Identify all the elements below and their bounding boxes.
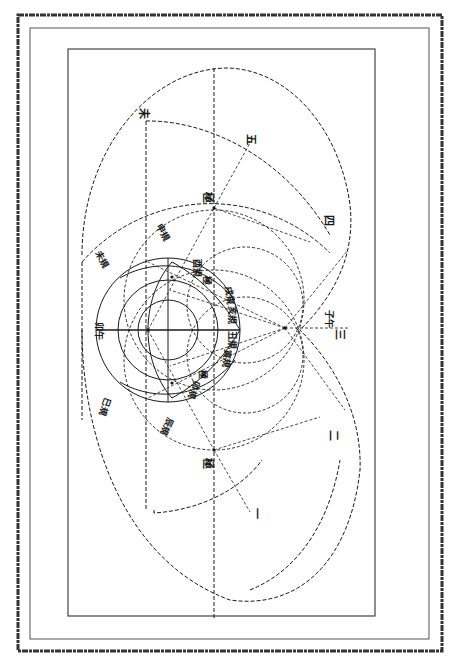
solid-circles [96, 258, 240, 402]
outer-arcs [82, 68, 360, 620]
label-inner-4: 丑規 [227, 331, 238, 349]
label-upper-pole: 極 [201, 191, 215, 203]
label-mark-five: 五 [244, 134, 257, 145]
label-inner-6: 極 [198, 369, 209, 379]
label-inner-2: 戌規 [223, 285, 237, 305]
label-mark-four: 四 [322, 215, 335, 226]
label-lower-mid-arc: 辰規 [158, 416, 176, 437]
label-inner-0: 酉規 [192, 259, 203, 277]
geometric-diagram: 未 五 四 子午 三 二 一 極 極 卯午 未規 巳規 申規 辰規 酉規 極 戌… [0, 0, 456, 659]
label-right-point: 子午 [324, 310, 335, 328]
label-top-left-point: 未 [137, 107, 151, 120]
label-mark-two: 二 [327, 430, 340, 441]
label-inner-7: 卯規 [186, 379, 202, 400]
label-upper-left-arc: 未規 [92, 248, 111, 270]
points [146, 206, 287, 451]
label-lower-left-arc: 巳規 [97, 396, 113, 417]
label-inner-5: 寅規 [220, 349, 234, 369]
radial-lines [148, 143, 350, 512]
label-mark-three: 三 [333, 329, 346, 340]
label-upper-mid-arc: 申規 [154, 222, 173, 243]
label-lower-pole: 極 [201, 457, 215, 469]
label-inner-1: 極 [202, 275, 213, 285]
label-left-axis: 卯午 [94, 322, 105, 340]
label-inner-3: 亥規 [227, 306, 238, 324]
labels: 未 五 四 子午 三 二 一 極 極 卯午 未規 巳規 申規 辰規 酉規 極 戌… [92, 107, 346, 519]
label-mark-one: 一 [250, 508, 263, 519]
